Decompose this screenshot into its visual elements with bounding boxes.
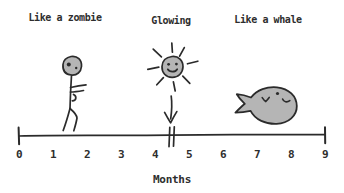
axis-tick-label-3: 3 xyxy=(109,148,133,161)
whale-eye xyxy=(276,92,279,95)
timeline-drawing xyxy=(0,0,344,193)
axis-break-tick-1 xyxy=(169,127,170,146)
zombie-leg-left xyxy=(63,109,70,131)
axis-tick-label-7: 7 xyxy=(245,148,269,161)
axis-tick-label-6: 6 xyxy=(211,148,235,161)
whale-icon xyxy=(235,87,296,124)
axis-line xyxy=(19,135,325,136)
axis-tick-label-2: 2 xyxy=(75,148,99,161)
zombie-head xyxy=(63,56,82,75)
zombie-eye-right xyxy=(75,67,77,69)
zombie-eye-left xyxy=(67,63,71,67)
sun-ray-upper-left xyxy=(153,49,161,57)
axis-tick-label-1: 1 xyxy=(41,148,65,161)
sun-ray-top xyxy=(172,43,173,52)
axis-tick-label-9: 9 xyxy=(313,148,337,161)
comic-pregnancy-timeline: Like a zombie Glowing Like a whale xyxy=(0,0,344,193)
arrow-shaft xyxy=(171,96,172,119)
axis-end-tick-left xyxy=(19,128,20,145)
axis-tick-label-8: 8 xyxy=(279,148,303,161)
axis-title: Months xyxy=(153,173,191,186)
zombie-leg-right xyxy=(70,109,77,131)
down-arrow-icon xyxy=(165,96,177,123)
sun-eye-right xyxy=(175,63,178,66)
whale-body xyxy=(235,87,296,124)
zombie-hand-curl xyxy=(72,95,76,101)
sun-ray-right xyxy=(188,61,198,64)
sun-ray-lower-right xyxy=(183,76,190,83)
zombie-arm-lower xyxy=(71,91,84,93)
zombie-arm-upper xyxy=(71,85,87,88)
axis-tick-label-4: 4 xyxy=(143,148,167,161)
sun-icon xyxy=(148,43,198,91)
axis-break-icon xyxy=(169,127,174,147)
sun-eye-left xyxy=(167,63,170,66)
sun-disc xyxy=(162,56,183,77)
zombie-icon xyxy=(63,56,86,130)
axis-break-tick-2 xyxy=(174,127,175,146)
axis-tick-label-0: 0 xyxy=(7,148,31,161)
axis-tick-label-5: 5 xyxy=(177,148,201,161)
sun-ray-left xyxy=(148,67,159,69)
sun-ray-lower-left xyxy=(157,78,164,85)
sun-ray-bottom xyxy=(173,82,175,91)
sun-ray-upper-right xyxy=(180,48,185,57)
timeline-axis xyxy=(19,127,326,147)
